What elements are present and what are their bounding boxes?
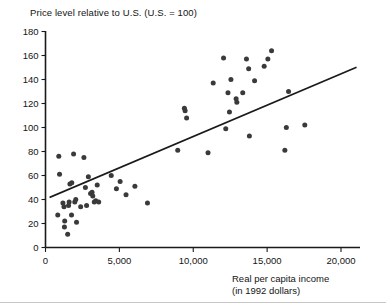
data-point bbox=[282, 148, 287, 153]
data-point bbox=[65, 232, 70, 237]
data-point bbox=[265, 57, 270, 62]
data-point bbox=[286, 89, 291, 94]
data-point bbox=[184, 115, 189, 120]
data-point bbox=[252, 78, 257, 83]
y-tick-label: 120 bbox=[23, 98, 39, 109]
data-point bbox=[225, 90, 230, 95]
y-tick-label: 80 bbox=[28, 146, 39, 157]
data-point bbox=[302, 123, 307, 128]
data-point bbox=[124, 192, 129, 197]
data-point bbox=[74, 220, 79, 225]
data-point bbox=[206, 150, 211, 155]
data-point bbox=[228, 77, 233, 82]
data-point bbox=[73, 197, 78, 202]
chart-figure: Price level relative to U.S. (U.S. = 100… bbox=[0, 0, 386, 307]
data-point bbox=[86, 174, 91, 179]
data-point bbox=[175, 148, 180, 153]
data-point bbox=[234, 100, 239, 105]
data-point bbox=[84, 203, 89, 208]
data-point bbox=[81, 155, 86, 160]
x-tick-label: 10,000 bbox=[179, 255, 208, 266]
axes bbox=[46, 31, 361, 248]
x-tick-label: 5,000 bbox=[107, 255, 131, 266]
data-point bbox=[71, 151, 76, 156]
data-points bbox=[55, 48, 307, 237]
data-point bbox=[269, 48, 274, 53]
y-tick-label: 140 bbox=[23, 74, 39, 85]
x-axis-label: Real per capita income (in 1992 dollars) bbox=[232, 273, 329, 296]
data-point bbox=[118, 179, 123, 184]
data-point bbox=[247, 133, 252, 138]
data-point bbox=[244, 57, 249, 62]
data-point bbox=[69, 180, 74, 185]
y-tick-label: 100 bbox=[23, 122, 39, 133]
y-tick-label: 180 bbox=[23, 26, 39, 37]
y-tick-label: 0 bbox=[33, 242, 38, 253]
data-point bbox=[227, 109, 232, 114]
data-point bbox=[62, 225, 67, 230]
data-point bbox=[132, 184, 137, 189]
data-point bbox=[55, 213, 60, 218]
x-axis-ticks: 05,00010,00015,00020,000 bbox=[43, 248, 356, 266]
data-point bbox=[246, 66, 251, 71]
data-point bbox=[62, 219, 67, 224]
data-point bbox=[57, 172, 62, 177]
data-point bbox=[61, 204, 66, 209]
y-tick-label: 60 bbox=[28, 170, 39, 181]
data-point bbox=[223, 126, 228, 131]
data-point bbox=[69, 213, 74, 218]
data-point bbox=[145, 201, 150, 206]
data-point bbox=[78, 204, 83, 209]
y-tick-label: 40 bbox=[28, 194, 39, 205]
y-tick-label: 20 bbox=[28, 218, 39, 229]
regression-line bbox=[50, 68, 355, 198]
y-tick-label: 160 bbox=[23, 50, 39, 61]
y-axis-ticks: 020406080100120140160180 bbox=[23, 26, 46, 253]
data-point bbox=[95, 183, 100, 188]
bottom-divider bbox=[0, 302, 386, 303]
data-point bbox=[284, 125, 289, 130]
data-point bbox=[211, 81, 216, 86]
data-point bbox=[183, 108, 188, 113]
scatter-plot: 020406080100120140160180 05,00010,00015,… bbox=[0, 0, 386, 307]
data-point bbox=[56, 154, 61, 159]
data-point bbox=[96, 199, 101, 204]
data-point bbox=[221, 55, 226, 60]
x-tick-label: 15,000 bbox=[253, 255, 282, 266]
x-tick-label: 20,000 bbox=[326, 255, 355, 266]
data-point bbox=[262, 64, 267, 69]
data-point bbox=[90, 193, 95, 198]
data-point bbox=[114, 186, 119, 191]
data-point bbox=[83, 185, 88, 190]
x-axis-label-sub: (in 1992 dollars) bbox=[232, 285, 329, 297]
data-point bbox=[109, 173, 114, 178]
x-axis-label-main: Real per capita income bbox=[232, 273, 329, 285]
data-point bbox=[240, 90, 245, 95]
x-tick-label: 0 bbox=[43, 255, 48, 266]
data-point bbox=[67, 199, 72, 204]
